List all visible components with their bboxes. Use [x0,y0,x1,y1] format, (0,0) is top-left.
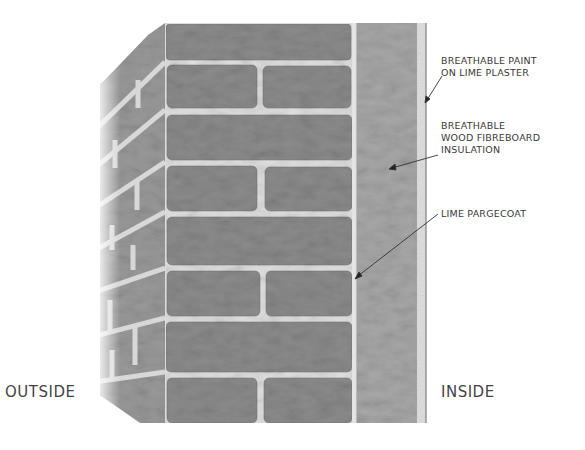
callout-wood-fibreboard: BREATHABLE WOOD FIBREBOARD INSULATION [441,120,540,156]
callout-line: ON LIME PLASTER [441,67,537,79]
callout-line: LIME PARGECOAT [441,208,526,220]
wall-section-diagram: BREATHABLE PAINT ON LIME PLASTER BREATHA… [0,0,585,450]
callout-paint-plaster: BREATHABLE PAINT ON LIME PLASTER [441,55,537,79]
inside-label: INSIDE [441,383,495,401]
brick-return-face [95,20,167,430]
callout-line: WOOD FIBREBOARD [441,132,540,144]
outside-label: OUTSIDE [5,383,75,401]
callout-line: BREATHABLE PAINT [441,55,537,67]
callout-line: BREATHABLE [441,120,540,132]
brick-front-face [165,23,355,423]
callout-lime-pargecoat: LIME PARGECOAT [441,208,526,220]
insulation-layer [357,23,417,423]
plaster-layer [417,23,426,423]
pargecoat-layer [352,23,357,423]
callout-line: INSULATION [441,144,540,156]
